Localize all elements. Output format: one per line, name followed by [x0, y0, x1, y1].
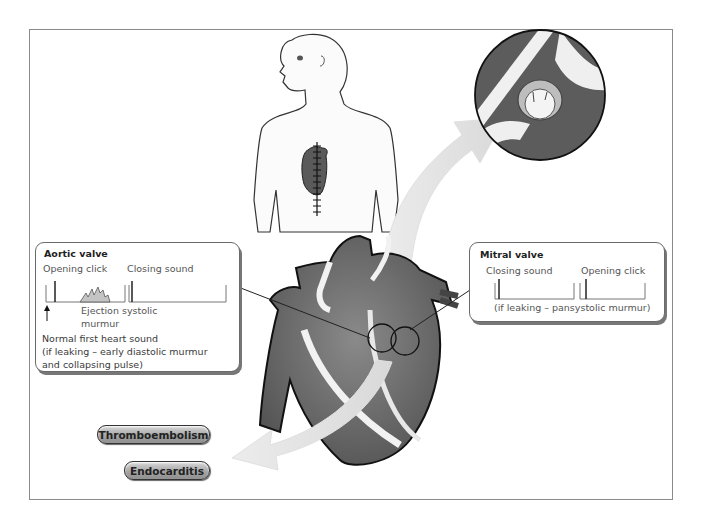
mitral-leak-note: (if leaking – pansystolic murmur) — [494, 302, 650, 313]
ejection-murmur-label-1: Ejection systolic — [81, 305, 158, 316]
first-heart-sound-label-1: Normal first heart sound — [42, 333, 158, 344]
thromboembolism-badge: Thromboembolism — [97, 425, 210, 444]
aortic-valve-panel: Aortic valve Opening click Closing sound… — [35, 242, 240, 372]
first-heart-sound-label-2: (if leaking – early diastolic murmur — [42, 346, 208, 357]
prosthetic-valve-inset — [470, 28, 610, 168]
heart-illustration — [260, 236, 458, 465]
endocarditis-badge: Endocarditis — [124, 461, 210, 480]
first-heart-sound-label-3: and collapsing pulse) — [42, 359, 143, 370]
aortic-phonocardiogram-icon — [36, 273, 241, 333]
aortic-valve-title: Aortic valve — [44, 248, 108, 259]
mitral-valve-panel: Mitral valve Closing sound Opening click… — [469, 242, 665, 322]
ejection-murmur-label-2: murmur — [81, 318, 119, 329]
human-figure-icon — [254, 34, 398, 232]
mitral-valve-title: Mitral valve — [480, 249, 543, 260]
